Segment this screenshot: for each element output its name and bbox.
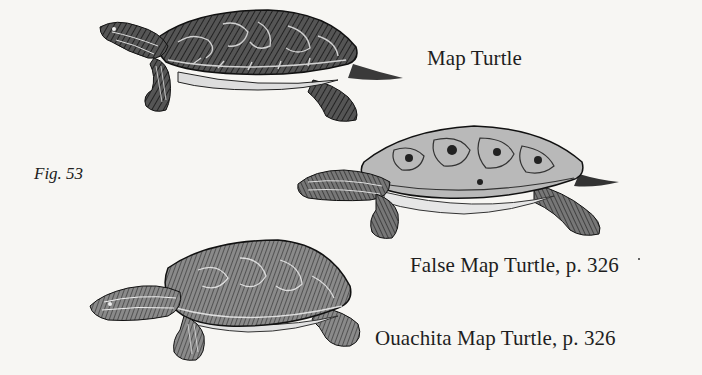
figure-label: Fig. 53 <box>34 164 83 184</box>
ouachita-map-turtle-illustration <box>88 236 368 364</box>
caption-map-turtle: Map Turtle <box>427 46 522 71</box>
field-guide-plate: Fig. 53 <box>0 0 702 375</box>
caption-ouachita-map-turtle: Ouachita Map Turtle, p. 326 <box>375 326 616 351</box>
false-map-turtle-illustration <box>294 122 620 240</box>
map-turtle-illustration <box>98 2 418 127</box>
caption-false-map-turtle: False Map Turtle, p. 326 <box>410 253 619 278</box>
scan-speck <box>638 258 640 260</box>
